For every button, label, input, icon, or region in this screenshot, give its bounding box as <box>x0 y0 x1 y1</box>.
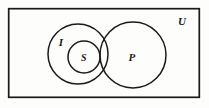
set-label-s: S <box>81 53 87 63</box>
venn-diagram-figure: I S P U <box>0 0 209 108</box>
set-label-i: I <box>59 37 63 48</box>
set-label-p: P <box>129 52 136 63</box>
universe-label: U <box>178 16 186 27</box>
universe-rectangle <box>9 9 200 98</box>
